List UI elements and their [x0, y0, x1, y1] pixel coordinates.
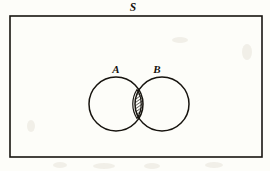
set-label-a: A — [111, 63, 119, 75]
universal-set-label: S — [130, 1, 136, 13]
venn-diagram-figure: S A B — [0, 0, 270, 171]
set-label-b: B — [152, 63, 160, 75]
venn-diagram-canvas: S A B — [0, 0, 270, 171]
